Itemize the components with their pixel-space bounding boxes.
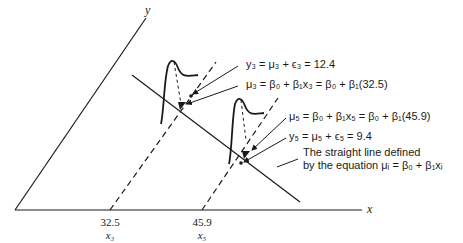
annotation-line-2: by the equation μᵢ = β₀ + β₁xᵢ: [303, 159, 443, 171]
mean-marker-x5: [242, 151, 250, 159]
annotation-mu3: μ₃ = β₀ + β₁x₃ = β₀ + β₁(32.5): [246, 78, 388, 90]
annotation-line-1: The straight line defined: [303, 146, 420, 158]
tick-x3-value: 32.5: [90, 216, 130, 228]
annotation-y5: y₅ = μ₅ + ϵ₅ = 9.4: [289, 130, 372, 142]
x3-dashed-line: [110, 62, 216, 210]
y-axis-label: y: [145, 4, 150, 16]
annotation-mu5: μ₅ = β₀ + β₁x₅ = β₀ + β₁(45.9): [289, 110, 430, 122]
y-axis: [15, 18, 146, 210]
tick-x5-value: 45.9: [182, 216, 222, 228]
observed-point-y3: [189, 94, 193, 98]
observed-point-y5: [239, 161, 243, 165]
tick-x5-label: x₅: [182, 229, 222, 241]
tick-x3-label: x₃: [90, 229, 130, 241]
annotation-y3: y₃ = μ₃ + ϵ₃ = 12.4: [246, 58, 335, 70]
x-axis-label: x: [367, 203, 372, 215]
x5-dashed-line: [202, 98, 278, 210]
